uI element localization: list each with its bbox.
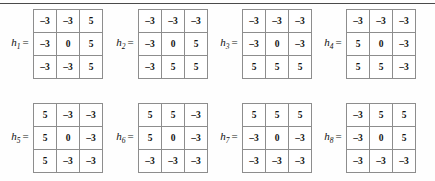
matrix-cell: 5	[243, 104, 266, 127]
matrix-row: –3 –3 5	[34, 10, 103, 33]
kernel-matrix-h1: –3 –3 5 –3 0 5 –3 –3 5	[33, 9, 103, 79]
kernel-matrix-h4: –3 –3 –3 5 0 –3 5 5 –3	[346, 9, 416, 79]
kernel-label-h8: h8=	[324, 131, 346, 145]
matrix-cell: –3	[185, 150, 208, 173]
kernel-label-h2-equals: =	[126, 36, 134, 48]
matrix-cell: –3	[289, 150, 312, 173]
kernel-unit-h3: h3= –3 –3 –3 –3 0 –3 5 5 5	[209, 8, 314, 80]
matrix-cell: 5	[289, 56, 312, 79]
kernel-label-h4: h4=	[324, 37, 346, 51]
matrix-cell: –3	[243, 10, 266, 33]
matrix-cell: 0	[266, 33, 289, 56]
kernel-label-h7: h7=	[220, 131, 242, 145]
kernel-matrix-h7: 5 5 5 –3 0 –3 –3 –3 –3	[242, 103, 312, 173]
kernel-unit-h8: h8= –3 5 5 –3 0 5 –3 –3 –3	[314, 102, 425, 174]
kernel-matrix-h8: –3 5 5 –3 0 5 –3 –3 –3	[346, 103, 416, 173]
kernel-label-h5-equals: =	[21, 130, 29, 142]
kernel-label-h1: h1=	[11, 37, 33, 51]
matrix-row: –3 0 5	[139, 33, 208, 56]
kernel-matrix-h3: –3 –3 –3 –3 0 –3 5 5 5	[242, 9, 312, 79]
matrix-cell: –3	[34, 56, 57, 79]
matrix-cell: –3	[80, 104, 103, 127]
kernel-label-h2: h2=	[116, 37, 138, 51]
kernel-unit-h6: h6= 5 5 –3 5 0 –3 –3 –3 –3	[104, 102, 209, 174]
matrix-cell: 0	[162, 127, 185, 150]
matrix-cell: –3	[80, 127, 103, 150]
kernel-unit-h1: h1= –3 –3 5 –3 0 5 –3 –3 5	[0, 8, 104, 80]
matrix-cell: 0	[266, 127, 289, 150]
matrix-row: –3 –3 –3	[347, 150, 416, 173]
matrix-row: –3 –3 –3	[139, 10, 208, 33]
kernel-unit-h7: h7= 5 5 5 –3 0 –3 –3 –3 –3	[209, 102, 314, 174]
matrix-cell: –3	[347, 10, 370, 33]
matrix-cell: –3	[185, 104, 208, 127]
matrix-cell: 5	[185, 56, 208, 79]
matrix-cell: –3	[289, 33, 312, 56]
matrix-cell: 5	[34, 127, 57, 150]
matrix-row: –3 0 5	[347, 127, 416, 150]
matrix-cell: 0	[370, 127, 393, 150]
matrix-cell: –3	[139, 56, 162, 79]
kernel-label-h4-equals: =	[334, 36, 342, 48]
matrix-cell: –3	[57, 56, 80, 79]
matrix-cell: –3	[393, 56, 416, 79]
kernel-label-h6: h6=	[116, 131, 138, 145]
kernel-matrix-h6: 5 5 –3 5 0 –3 –3 –3 –3	[138, 103, 208, 173]
figure-top-rule	[0, 3, 435, 4]
kernel-grid-container: h1= –3 –3 5 –3 0 5 –3 –3 5	[0, 8, 435, 181]
matrix-row: 5 5 5	[243, 104, 312, 127]
matrix-cell: 0	[370, 33, 393, 56]
matrix-cell: 5	[370, 104, 393, 127]
matrix-cell: –3	[139, 33, 162, 56]
matrix-row: 5 –3 –3	[34, 150, 103, 173]
matrix-row: –3 0 5	[34, 33, 103, 56]
matrix-cell: –3	[243, 150, 266, 173]
kernel-label-h8-equals: =	[334, 130, 342, 142]
matrix-cell: –3	[57, 10, 80, 33]
kernel-unit-h2: h2= –3 –3 –3 –3 0 5 –3 5 5	[104, 8, 209, 80]
matrix-cell: –3	[243, 127, 266, 150]
matrix-cell: –3	[347, 127, 370, 150]
matrix-cell: –3	[139, 10, 162, 33]
matrix-cell: 5	[162, 56, 185, 79]
matrix-cell: –3	[347, 104, 370, 127]
matrix-cell: 5	[393, 127, 416, 150]
kernel-matrix-h2: –3 –3 –3 –3 0 5 –3 5 5	[138, 9, 208, 79]
matrix-cell: –3	[162, 150, 185, 173]
matrix-row: –3 –3 5	[34, 56, 103, 79]
matrix-cell: 5	[139, 104, 162, 127]
matrix-cell: 5	[243, 56, 266, 79]
matrix-row: –3 5 5	[347, 104, 416, 127]
matrix-cell: –3	[393, 10, 416, 33]
matrix-row: 5 0 –3	[347, 33, 416, 56]
matrix-row: 5 5 5	[243, 56, 312, 79]
matrix-cell: 5	[80, 10, 103, 33]
matrix-cell: 5	[185, 33, 208, 56]
matrix-cell: 5	[393, 104, 416, 127]
kernel-row-top: h1= –3 –3 5 –3 0 5 –3 –3 5	[0, 8, 435, 102]
matrix-cell: 5	[139, 127, 162, 150]
matrix-row: –3 –3 –3	[243, 150, 312, 173]
matrix-cell: 5	[347, 56, 370, 79]
matrix-cell: 5	[34, 104, 57, 127]
matrix-cell: 0	[162, 33, 185, 56]
kernel-label-h1-equals: =	[21, 36, 29, 48]
kernel-row-bottom: h5= 5 –3 –3 5 0 –3 5 –3 –3	[0, 102, 435, 181]
matrix-cell: 5	[347, 33, 370, 56]
kernel-label-h7-equals: =	[230, 130, 238, 142]
matrix-cell: –3	[289, 10, 312, 33]
matrix-row: 5 5 –3	[139, 104, 208, 127]
matrix-cell: –3	[393, 150, 416, 173]
matrix-cell: 5	[266, 56, 289, 79]
matrix-cell: –3	[266, 150, 289, 173]
kernel-figure: h1= –3 –3 5 –3 0 5 –3 –3 5	[0, 0, 435, 181]
kernel-unit-h5: h5= 5 –3 –3 5 0 –3 5 –3 –3	[0, 102, 104, 174]
matrix-cell: 5	[80, 56, 103, 79]
matrix-row: 5 5 –3	[347, 56, 416, 79]
matrix-cell: –3	[347, 150, 370, 173]
matrix-cell: –3	[185, 10, 208, 33]
matrix-row: 5 0 –3	[34, 127, 103, 150]
kernel-label-h6-equals: =	[126, 130, 134, 142]
matrix-row: –3 –3 –3	[347, 10, 416, 33]
matrix-cell: –3	[34, 33, 57, 56]
